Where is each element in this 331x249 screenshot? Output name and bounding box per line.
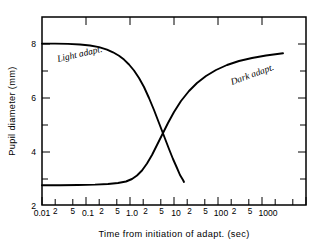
x-tick-label-11: 5 — [203, 207, 208, 216]
y-axis-ticks — [42, 44, 50, 179]
x-tick-label-6: 1.0 — [126, 208, 138, 218]
x-tick-label-9: 10 — [171, 208, 181, 218]
x-tick-label-14: 5 — [248, 207, 253, 216]
x-tick-label-12: 100 — [214, 208, 229, 218]
x-tick-label-4: 2 — [99, 207, 104, 216]
light-adapt-curve — [42, 44, 184, 182]
x-tick-label-15: 1000 — [258, 208, 277, 218]
x-tick-label-7: 2 — [143, 207, 148, 216]
x-tick-label-5: 5 — [115, 207, 120, 216]
y-tick-label-4: 4 — [31, 147, 36, 157]
x-axis-major-ticks — [42, 197, 306, 205]
pupil-adaptation-chart: 8 6 4 2 0.01 2 5 0.1 2 5 1.0 2 5 10 2 5 … — [0, 0, 331, 249]
dark-adapt-label: Dark adapt. — [228, 62, 275, 87]
x-axis-title: Time from initiation of adapt. (sec) — [98, 229, 249, 239]
x-tick-label-10: 2 — [187, 207, 192, 216]
x-tick-label-3: 0.1 — [82, 208, 94, 218]
x-tick-label-13: 2 — [232, 207, 237, 216]
y-tick-label-6: 6 — [31, 93, 36, 103]
light-adapt-label: Light adapt. — [55, 44, 103, 64]
y-tick-label-8: 8 — [31, 39, 36, 49]
x-tick-label-8: 5 — [159, 207, 164, 216]
x-tick-label-2: 5 — [71, 207, 76, 216]
x-tick-label-1: 2 — [53, 207, 58, 216]
top-axis-ticks — [86, 17, 262, 25]
chart-figure: 8 6 4 2 0.01 2 5 0.1 2 5 1.0 2 5 10 2 5 … — [0, 0, 331, 249]
right-axis-ticks — [298, 44, 306, 179]
y-axis-title: Pupil diameter (mm) — [7, 66, 17, 155]
x-tick-label-0: 0.01 — [34, 208, 51, 218]
